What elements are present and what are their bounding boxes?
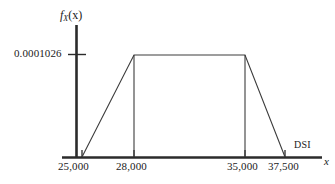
chart-canvas [0,0,335,184]
x-tick-label-35000: 35,000 [227,161,258,172]
dsi-annotation: DSI [294,140,311,150]
x-tick-label-37500: 37,500 [268,161,299,172]
x-tick-label-25000: 25,000 [58,161,89,172]
x-axis-title: x [324,156,329,167]
x-tick-label-28000: 28,000 [116,161,147,172]
y-axis-title: fX(x) [60,9,82,23]
pdf-chart: fX(x) 0.0001026 25,000 28,000 35,000 37,… [0,0,335,184]
pdf-curve [82,55,285,157]
y-axis-title-arg: (x) [68,8,82,22]
y-tick-label-0: 0.0001026 [14,48,62,59]
